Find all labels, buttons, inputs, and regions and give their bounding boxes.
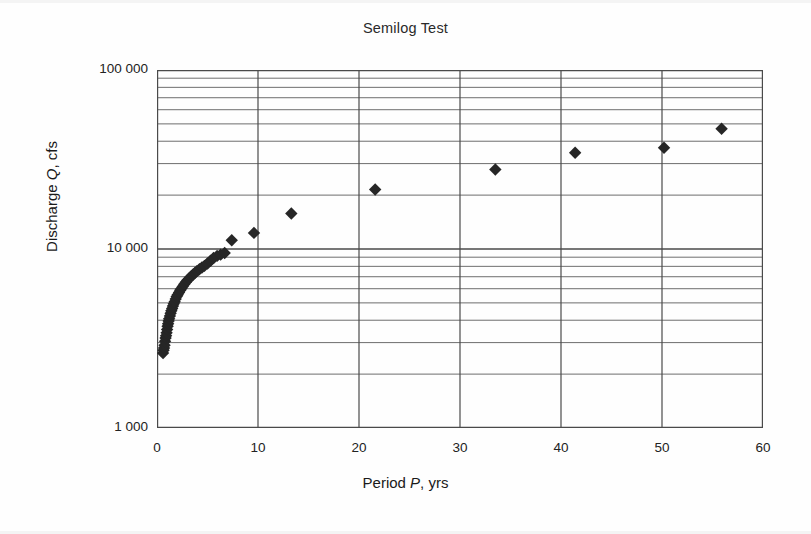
chart-figure: Semilog Test Discharge Q, cfs Period P, …: [0, 0, 811, 534]
x-axis-symbol: P: [410, 474, 420, 491]
x-tick-label: 20: [339, 440, 379, 455]
data-point: [569, 147, 581, 159]
x-tick-label: 0: [137, 440, 177, 455]
x-tick-label: 60: [743, 440, 783, 455]
y-tick-label: 1 000: [53, 419, 148, 434]
data-point: [369, 183, 381, 195]
y-axis-title: Discharge Q, cfs: [43, 82, 60, 312]
y-axis-title-post: , cfs: [43, 141, 60, 169]
chart-title: Semilog Test: [0, 20, 811, 36]
data-point: [489, 163, 501, 175]
plot-canvas: [157, 70, 763, 428]
data-point: [226, 234, 238, 246]
y-tick-label: 10 000: [53, 240, 148, 255]
x-axis-title-pre: Period: [363, 474, 411, 491]
plot-area: [157, 70, 763, 428]
x-tick-label: 10: [238, 440, 278, 455]
x-axis-title-post: , yrs: [420, 474, 448, 491]
y-tick-label: 100 000: [53, 61, 148, 76]
data-marker-group: [157, 122, 728, 359]
x-tick-label: 40: [541, 440, 581, 455]
y-axis-symbol: Q: [43, 169, 60, 181]
x-tick-label: 30: [440, 440, 480, 455]
data-point: [658, 142, 670, 154]
x-tick-label: 50: [642, 440, 682, 455]
data-point: [285, 207, 297, 219]
x-axis-title: Period P, yrs: [0, 474, 811, 491]
scan-edge-top: [0, 0, 811, 3]
